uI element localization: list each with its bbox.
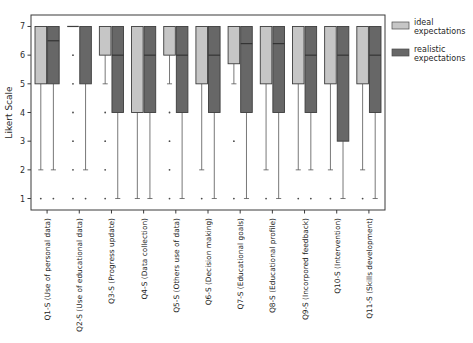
box-body (273, 26, 285, 112)
outlier-point (201, 198, 203, 200)
box-body (48, 26, 60, 83)
box-body (164, 26, 176, 55)
box-plot-item (99, 26, 111, 199)
x-category-label: Q11-S (Skills development) (365, 218, 374, 319)
outlier-point (72, 54, 74, 56)
outlier-point (297, 198, 299, 200)
x-category-label: Q10-S (Intervention) (333, 218, 342, 294)
box-plot-item (48, 26, 60, 199)
box-body (292, 26, 304, 83)
box-plot-item (260, 26, 272, 199)
legend-swatch (392, 22, 409, 29)
box-plot-item (369, 26, 381, 198)
x-category-label: Q1-S (Use of personal data) (43, 218, 52, 321)
box-body (144, 26, 156, 112)
box-body (241, 26, 253, 112)
box-body (99, 26, 111, 55)
x-category-label: Q2-S (Use of educational data) (75, 218, 84, 332)
legend-swatch (392, 49, 409, 56)
box-plot-item (176, 26, 188, 198)
x-category-label: Q7-S (Educational goals) (236, 218, 245, 309)
legend-label-line2: expectations (414, 27, 465, 36)
outlier-point (104, 169, 106, 171)
outlier-point (169, 140, 171, 142)
y-tick-label: 4 (20, 109, 25, 118)
box-plot-item (357, 26, 369, 199)
outlier-point (85, 198, 87, 200)
y-tick-label: 6 (20, 51, 25, 60)
outlier-point (233, 198, 235, 200)
box-plot-item (35, 26, 47, 199)
outlier-point (310, 198, 312, 200)
x-category-label: Q4-S (Data collection) (140, 218, 149, 300)
outlier-point (72, 198, 74, 200)
x-category-label: Q9-S (Incorpored feedback) (301, 218, 310, 320)
x-category-label: Q6-S (Decision making) (204, 218, 213, 305)
outlier-point (169, 112, 171, 114)
box-body (176, 26, 188, 112)
box-body (305, 26, 317, 112)
box-body (228, 26, 240, 63)
box-plot-item (132, 26, 144, 198)
box-body (112, 26, 124, 112)
boxplot-figure: 1234567Likert ScaleQ1-S (Use of personal… (0, 0, 473, 343)
chart-canvas: 1234567Likert ScaleQ1-S (Use of personal… (0, 0, 473, 343)
outlier-point (72, 112, 74, 114)
box-plot-item (209, 26, 221, 198)
outlier-point (104, 140, 106, 142)
box-body (196, 26, 208, 83)
outlier-point (169, 169, 171, 171)
outlier-point (362, 198, 364, 200)
outlier-point (233, 140, 235, 142)
box-plot-item (144, 26, 156, 198)
box-body (369, 26, 381, 112)
box-body (260, 26, 272, 83)
box-body (337, 26, 349, 141)
box-plot-item (67, 26, 79, 199)
outlier-point (265, 198, 267, 200)
outlier-point (169, 198, 171, 200)
y-axis-label: Likert Scale (4, 86, 14, 139)
y-tick-label: 2 (20, 166, 25, 175)
outlier-point (104, 198, 106, 200)
box-plot-item (305, 26, 317, 199)
outlier-point (72, 169, 74, 171)
x-category-label: Q5-S (Others use of data) (172, 218, 181, 313)
legend-label-line2: expectations (414, 54, 465, 63)
box-body (325, 26, 337, 83)
outlier-point (104, 112, 106, 114)
y-tick-label: 7 (20, 22, 25, 31)
outlier-point (72, 140, 74, 142)
outlier-point (330, 198, 332, 200)
box-body (132, 26, 144, 112)
box-plot-item (196, 26, 208, 199)
box-plot-item (80, 26, 92, 199)
box-plot-item (164, 26, 176, 199)
box-plot-item (273, 26, 285, 198)
x-category-label: Q3-S (Progress update) (107, 218, 116, 304)
box-plot-item (337, 26, 349, 198)
y-tick-label: 3 (20, 137, 25, 146)
y-tick-label: 1 (20, 195, 25, 204)
box-plot-item (325, 26, 337, 199)
box-plot-item (228, 26, 240, 199)
outlier-point (52, 198, 54, 200)
outlier-point (40, 198, 42, 200)
box-plot-item (241, 26, 253, 198)
box-body (357, 26, 369, 83)
y-tick-label: 5 (20, 80, 25, 89)
outlier-point (72, 83, 74, 85)
box-body (209, 26, 221, 112)
x-category-label: Q8-S (Educational profile) (268, 218, 277, 313)
legend-label-line1: ideal (414, 18, 433, 27)
box-body (80, 26, 92, 83)
box-body (35, 26, 47, 83)
box-plot-item (112, 26, 124, 198)
legend-label-line1: realistic (414, 45, 445, 54)
box-plot-item (292, 26, 304, 199)
